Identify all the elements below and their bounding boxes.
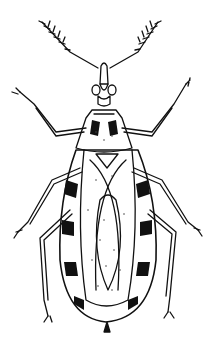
insect-illustration [0,0,214,352]
antenna-left [39,21,98,68]
middle-legs [14,168,202,238]
abdomen-markings [62,120,152,310]
pronotum [76,110,132,152]
insect-drawing [0,0,214,352]
antenna-right [110,21,161,68]
head [92,63,116,106]
abdomen [60,150,156,332]
hemelytra [80,150,135,306]
